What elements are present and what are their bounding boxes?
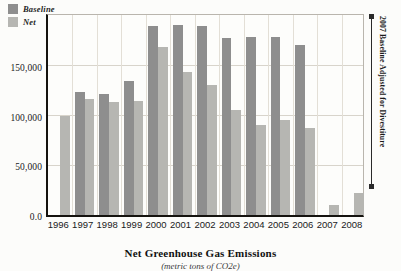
bar-net-2007 — [329, 205, 339, 215]
chart-figure: Baseline Net 0.050,000100,000150,000 199… — [0, 0, 401, 271]
bar-group — [320, 15, 340, 215]
bar-net-1996 — [60, 116, 70, 215]
x-tick-label: 2004 — [243, 219, 264, 230]
bar-group — [124, 15, 144, 215]
bar-net-2006 — [305, 128, 315, 215]
x-tick-label: 2006 — [292, 219, 313, 230]
bar-baseline-2001 — [173, 25, 183, 215]
bar-net-2002 — [207, 85, 217, 215]
divestiture-label: 2007 Baseline Adjusted for Divestiture — [375, 16, 389, 188]
bar-group — [99, 15, 119, 215]
bracket-cap-top — [369, 14, 374, 19]
x-tick-label: 2002 — [194, 219, 215, 230]
x-tick-label: 2003 — [219, 219, 240, 230]
x-tick-label: 2001 — [170, 219, 191, 230]
legend-label-baseline: Baseline — [23, 4, 55, 14]
bar-group — [75, 15, 95, 215]
bar-net-2001 — [183, 72, 193, 215]
x-tick-label: 1996 — [48, 219, 69, 230]
bar-group — [344, 15, 364, 215]
bar-net-1998 — [109, 102, 119, 215]
y-tick-label: 0.0 — [30, 212, 42, 222]
bars-layer — [48, 15, 363, 215]
plot-area — [46, 14, 364, 217]
bracket-cap-bottom — [369, 184, 374, 189]
x-axis: 1996199719981999200020012002200320042005… — [46, 219, 364, 235]
bar-group — [222, 15, 242, 215]
y-tick-label: 100,000 — [10, 113, 42, 123]
bar-net-1997 — [85, 99, 95, 215]
x-tick-label: 2000 — [145, 219, 166, 230]
bar-net-1999 — [134, 101, 144, 215]
bar-baseline-2000 — [148, 26, 158, 215]
bar-group — [246, 15, 266, 215]
legend-item-baseline: Baseline — [8, 4, 55, 14]
bar-net-2000 — [158, 47, 168, 215]
bar-baseline-2002 — [197, 26, 207, 215]
bar-baseline-2004 — [246, 37, 256, 215]
bar-net-2008 — [354, 193, 364, 215]
bar-baseline-1997 — [75, 92, 85, 215]
x-tick-label: 2005 — [268, 219, 289, 230]
bar-baseline-2006 — [295, 45, 305, 215]
bar-group — [271, 15, 291, 215]
bar-baseline-1998 — [99, 94, 109, 215]
bar-baseline-2005 — [271, 37, 281, 215]
bar-baseline-2003 — [222, 38, 232, 215]
divestiture-annotation: 2007 Baseline Adjusted for Divestiture — [366, 14, 400, 204]
legend-swatch-baseline — [8, 4, 18, 14]
bar-group — [173, 15, 193, 215]
x-tick-label: 1998 — [97, 219, 118, 230]
y-axis: 0.050,000100,000150,000 — [0, 14, 42, 217]
y-tick-label: 50,000 — [15, 162, 42, 172]
bar-group — [197, 15, 217, 215]
x-tick-label: 2008 — [341, 219, 362, 230]
x-tick-label: 1997 — [72, 219, 93, 230]
bar-net-2004 — [256, 125, 266, 215]
bar-baseline-1999 — [124, 81, 134, 215]
x-tick-label: 1999 — [121, 219, 142, 230]
bar-group — [148, 15, 168, 215]
bracket-line — [371, 16, 372, 188]
y-tick-label: 150,000 — [10, 63, 42, 73]
chart-subtitle: (metric tons of CO2e) — [0, 261, 401, 271]
bar-net-2003 — [231, 110, 241, 215]
bar-group — [50, 15, 70, 215]
bar-net-2005 — [280, 120, 290, 215]
chart-title: Net Greenhouse Gas Emissions — [0, 247, 401, 259]
x-tick-label: 2007 — [317, 219, 338, 230]
bar-group — [295, 15, 315, 215]
